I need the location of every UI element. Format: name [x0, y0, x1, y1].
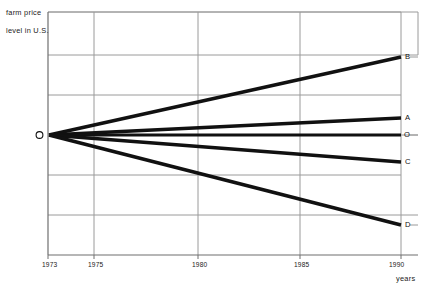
x-axis-label: years: [396, 274, 415, 283]
origin-marker-circle: [36, 132, 43, 139]
chart-canvas: [0, 0, 431, 289]
x-tick-label-1980: 1980: [192, 261, 207, 268]
series-label-d: D: [405, 220, 411, 229]
x-tick-label-1985: 1985: [294, 261, 309, 268]
x-tick-label-1975: 1975: [88, 261, 103, 268]
farm-price-projection-chart: farm price level in U.S. years 1973 1975…: [0, 0, 431, 289]
series-label-c: C: [405, 157, 411, 166]
series-line-b: [49, 57, 401, 135]
outer-frame: [48, 12, 418, 55]
x-axis-ticks: [48, 255, 401, 259]
series-label-b: B: [405, 52, 410, 61]
series-label-connectors: [410, 57, 418, 225]
series-label-a: A: [405, 113, 410, 122]
horizontal-gridlines: [48, 12, 418, 215]
series-label-o: O: [404, 130, 410, 139]
projection-lines: [49, 57, 401, 225]
y-axis-label-line-1: farm price: [6, 8, 41, 17]
y-axis-label-line-2: level in U.S.: [6, 26, 49, 35]
x-tick-label-1973: 1973: [42, 261, 57, 268]
series-line-a: [49, 118, 401, 135]
x-tick-label-1990: 1990: [389, 261, 404, 268]
